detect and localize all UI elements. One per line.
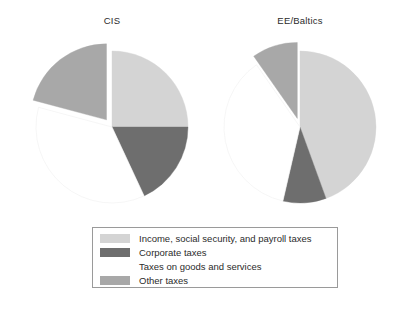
legend-label-goods-services-taxes: Taxes on goods and services (139, 261, 262, 272)
legend-swatch-other-taxes (100, 276, 130, 285)
pie-slices-cis (33, 44, 188, 203)
pie-slice (33, 44, 106, 120)
chart-legend: Income, social security, and payroll tax… (92, 227, 338, 288)
pie-slices-ee-baltics (224, 42, 376, 203)
legend-item-income-taxes: Income, social security, and payroll tax… (93, 231, 337, 245)
legend-item-other-taxes: Other taxes (93, 273, 337, 287)
legend-swatch-income-taxes (100, 234, 130, 243)
pie-chart-ee-baltics (205, 24, 395, 224)
legend-item-corporate-taxes: Corporate taxes (93, 245, 337, 259)
legend-swatch-corporate-taxes (100, 248, 130, 257)
legend-swatch-goods-services-taxes (100, 262, 130, 271)
legend-item-goods-services-taxes: Taxes on goods and services (93, 259, 337, 273)
pie-slice (112, 51, 188, 127)
legend-label-other-taxes: Other taxes (139, 275, 188, 286)
legend-label-corporate-taxes: Corporate taxes (139, 247, 207, 258)
pie-chart-cis (17, 24, 207, 224)
chart-figure: CIS EE/Baltics Income, social security, … (0, 0, 412, 310)
legend-label-income-taxes: Income, social security, and payroll tax… (139, 233, 311, 244)
